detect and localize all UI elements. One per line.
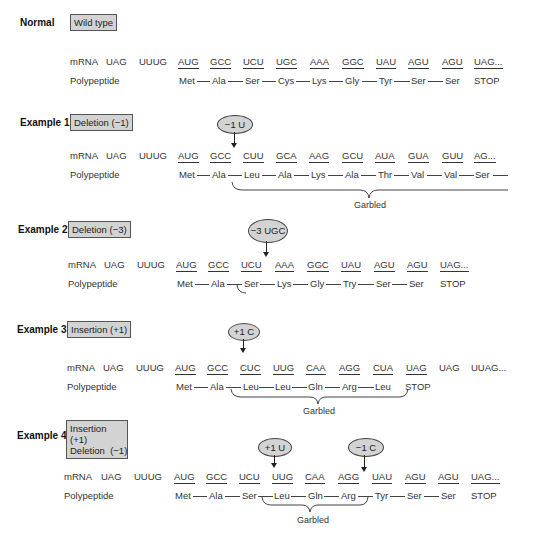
codon: CUC xyxy=(240,362,261,375)
mrna-label: mRNA xyxy=(64,471,92,482)
codon: UUAG... xyxy=(471,362,506,373)
arrow-down-icon xyxy=(271,463,277,468)
peptide-bond xyxy=(325,387,340,388)
amino-acid: Ser xyxy=(242,490,257,501)
codon: AGU xyxy=(438,471,459,484)
amino-acid: Met xyxy=(175,490,191,501)
stop-label: STOP xyxy=(471,490,497,501)
mutation-oval: +1 U xyxy=(258,438,292,457)
codon: GCC xyxy=(207,362,228,375)
amino-acid: Ser xyxy=(409,278,424,289)
type-line-insertion: Insertion (+1) xyxy=(70,423,124,445)
mutation-oval: −1 C xyxy=(348,438,384,457)
amino-acid: Ala xyxy=(210,381,224,392)
peptide-bond xyxy=(326,284,341,285)
peptide-bond xyxy=(292,387,307,388)
amino-acid: Arg xyxy=(342,381,357,392)
codon: CUA xyxy=(373,362,393,375)
peptide-bond xyxy=(194,387,208,388)
leader-codon: UAG xyxy=(103,362,124,373)
codon: UAU xyxy=(372,471,392,484)
codon: UUG xyxy=(272,471,293,484)
peptide-bond xyxy=(358,496,373,497)
amino-acid: Leu xyxy=(375,381,391,392)
codon: UAG... xyxy=(471,471,500,484)
arrow-down-icon xyxy=(361,467,367,472)
leader-codon: UUUG xyxy=(134,471,162,482)
peptide-bond xyxy=(424,496,439,497)
codon: UAG xyxy=(406,362,427,375)
amino-acid: Tyr xyxy=(375,490,388,501)
peptide-bond xyxy=(358,387,374,388)
stop-label: STOP xyxy=(405,381,431,392)
codon: UCU xyxy=(239,471,260,484)
amino-acid: Lys xyxy=(277,278,291,289)
codon: UCU xyxy=(241,259,262,272)
leader-codon: UUUG xyxy=(136,362,164,373)
peptide-bond xyxy=(392,284,407,285)
leader-codon: UAG xyxy=(101,471,122,482)
amino-acid: Ser xyxy=(441,490,456,501)
codon: GGC xyxy=(307,259,329,272)
amino-acid: Met xyxy=(176,381,192,392)
arrow-down-icon xyxy=(240,348,246,353)
amino-acid: Leu xyxy=(274,490,290,501)
codon: AGG xyxy=(339,362,360,375)
amino-acid: Ser xyxy=(376,278,391,289)
codon: UAG... xyxy=(440,259,469,272)
peptide-bond xyxy=(193,496,207,497)
example-label: Example 2 xyxy=(18,224,67,235)
codon: GCC xyxy=(206,471,227,484)
amino-acid: Gln xyxy=(308,381,323,392)
stop-label: STOP xyxy=(440,278,466,289)
amino-acid: Ala xyxy=(211,278,225,289)
peptide-bond xyxy=(258,496,273,497)
amino-acid: Met xyxy=(177,278,193,289)
codon: AAA xyxy=(275,259,294,272)
example-label: Example 4 xyxy=(17,430,66,441)
codon: CAA xyxy=(306,362,326,375)
mrna-label: mRNA xyxy=(68,259,96,270)
peptide-bond xyxy=(390,496,405,497)
mutation-oval: −3 UGC xyxy=(248,219,288,243)
peptide-bond xyxy=(293,284,308,285)
garbled-label: Garbled xyxy=(297,515,329,525)
peptide-bond xyxy=(195,284,209,285)
polypeptide-label: Polypeptide xyxy=(67,381,117,392)
codon: CAA xyxy=(305,471,325,484)
codon: AGG xyxy=(338,471,359,484)
peptide-bond xyxy=(227,284,242,285)
amino-acid: Leu xyxy=(275,381,291,392)
codon: UAU xyxy=(341,259,361,272)
garbled-label: Garbled xyxy=(354,200,386,210)
polypeptide-label: Polypeptide xyxy=(64,490,114,501)
amino-acid: Arg xyxy=(341,490,356,501)
codon: AUG xyxy=(176,259,197,272)
amino-acid: Gln xyxy=(308,490,323,501)
arrow-down-icon xyxy=(263,252,269,257)
amino-acid: Ser xyxy=(407,490,422,501)
peptide-bond xyxy=(259,387,274,388)
peptide-bond xyxy=(324,496,339,497)
example-label: Example 3 xyxy=(17,324,66,335)
peptide-bond xyxy=(291,496,306,497)
amino-acid: Ala xyxy=(209,490,223,501)
codon: AGU xyxy=(374,259,395,272)
amino-acid: Try xyxy=(343,278,356,289)
type-line-deletion: Deletion (−1) xyxy=(70,445,124,456)
mutation-type-box: Insertion (+1) Deletion (−1) xyxy=(66,420,128,459)
mutation-type-box: Deletion (−3) xyxy=(68,221,131,238)
amino-acid: Gly xyxy=(310,278,324,289)
codon: AUG xyxy=(175,362,196,375)
codon: UUG xyxy=(273,362,294,375)
peptide-bond xyxy=(358,284,374,285)
codon: AUG xyxy=(174,471,195,484)
leader-codon: UAG xyxy=(104,259,125,270)
codon: AGU xyxy=(407,259,428,272)
codon: AGU xyxy=(405,471,426,484)
garbled-label: Garbled xyxy=(303,406,335,416)
peptide-bond xyxy=(260,284,275,285)
codon: GCC xyxy=(208,259,229,272)
leader-codon: UUUG xyxy=(137,259,165,270)
polypeptide-label: Polypeptide xyxy=(68,278,118,289)
